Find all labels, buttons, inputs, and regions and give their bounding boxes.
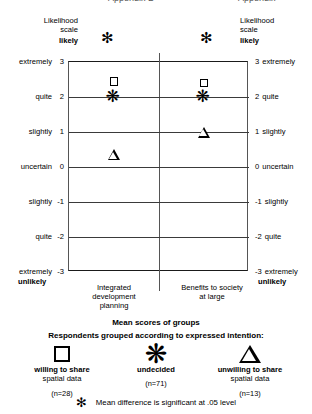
y-tick-label-left: extremely-3 [19,268,64,276]
triangle-data-point [198,127,210,138]
footnote-star-icon: ✻ [76,395,87,410]
category-label-left: Integrateddevelopmentplanning [66,283,162,311]
scale-header-right: Likelihood scale likely [240,16,312,45]
legend-item-unwilling: unwilling to share spatial data (n=13) [202,345,298,398]
legend-n-undecided: (n=71) [108,379,204,388]
gridline [69,97,249,98]
legend-item-willing: willing to share spatial data (n=28) [14,345,110,398]
gridline [69,167,249,168]
legend-label-unwilling: unwilling to share spatial data [202,365,298,384]
square-marker-icon [14,345,110,363]
category-label-line: development [66,292,162,301]
y-tick-label-left: slightly-1 [29,198,64,206]
axis-endpoint-unlikely-right: unlikely [258,277,286,286]
header-fragment-left: Appendix B [108,0,154,3]
footnote: ✻Mean difference is significant at .05 l… [0,395,312,410]
legend: willing to share spatial data (n=28) ❋ u… [14,345,298,393]
cut-off-header-artifact: Appendix B Appendix [0,0,312,6]
scale-header-left-likely: likely [0,36,78,45]
legend-label-undecided: undecided [108,365,204,374]
y-tick-label-left: uncertain0 [21,163,64,171]
footnote-text: Mean difference is significant at .05 le… [96,398,236,407]
y-tick-label-right: -2quite [255,233,281,241]
gridline [69,202,249,203]
plot-area: extremely33extremelyquite22quiteslightly… [68,61,248,271]
legend-label-willing-line2: spatial data [14,374,110,383]
category-label-line: Benefits to society [164,283,260,292]
y-tick-label-right: 1slightly [255,128,285,136]
y-tick-label-right: 0uncertain [255,163,293,171]
y-tick-label-right: -3extremely [255,268,298,276]
scale-header-left-line2: scale [0,25,78,34]
category-label-line: Integrated [66,283,162,292]
triangle-marker-icon [202,345,298,363]
y-tick-label-left: quite2 [36,93,64,101]
header-fragment-right: Appendix [238,0,276,3]
legend-label-undecided-line1: undecided [137,365,175,374]
y-tick-label-right: -1slightly [255,198,288,206]
category-label-line: at large [164,292,260,301]
legend-label-unwilling-line1: unwilling to share [218,365,283,374]
star-data-point: ❋ [106,88,120,106]
scale-header-right-line2: scale [240,25,312,34]
y-tick-label-right: 3extremely [255,58,295,66]
scale-header-right-likely: likely [240,36,312,45]
gridline [69,132,249,133]
triangle-data-point [108,149,120,160]
legend-label-unwilling-line2: spatial data [202,374,298,383]
legend-item-undecided: ❋ undecided (n=71) [108,345,204,388]
gridline [69,237,249,238]
significance-star-icon-right: ✻ [200,31,213,46]
star-marker-icon: ❋ [108,345,204,363]
star-data-point: ❋ [196,88,210,106]
y-tick-label-left: slightly1 [29,128,64,136]
y-tick-label-left: quite-2 [36,233,64,241]
legend-label-willing-line1: willing to share [34,365,89,374]
category-label-line: planning [66,301,162,310]
y-tick-label-left: extremely3 [19,58,64,66]
category-label-right: Benefits to societyat large [164,283,260,301]
scale-header-right-line1: Likelihood [240,16,312,25]
scale-header-left: Likelihood scale likely [0,16,78,45]
axis-endpoint-unlikely-left: unlikely [18,277,46,286]
scale-header-left-line1: Likelihood [0,16,78,25]
y-tick-label-right: 2quite [255,93,279,101]
significance-star-icon-left: ✻ [101,31,114,46]
legend-label-willing: willing to share spatial data [14,365,110,384]
square-data-point [110,77,119,86]
chart-title: Mean scores of groups [0,318,312,327]
